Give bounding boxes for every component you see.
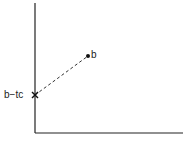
diagram-canvas	[0, 0, 185, 148]
point-b-dot-icon	[86, 54, 90, 58]
point-b-label: b	[91, 49, 97, 60]
dashed-connector-line	[35, 56, 88, 95]
intercept-label: b−tc	[4, 89, 23, 100]
